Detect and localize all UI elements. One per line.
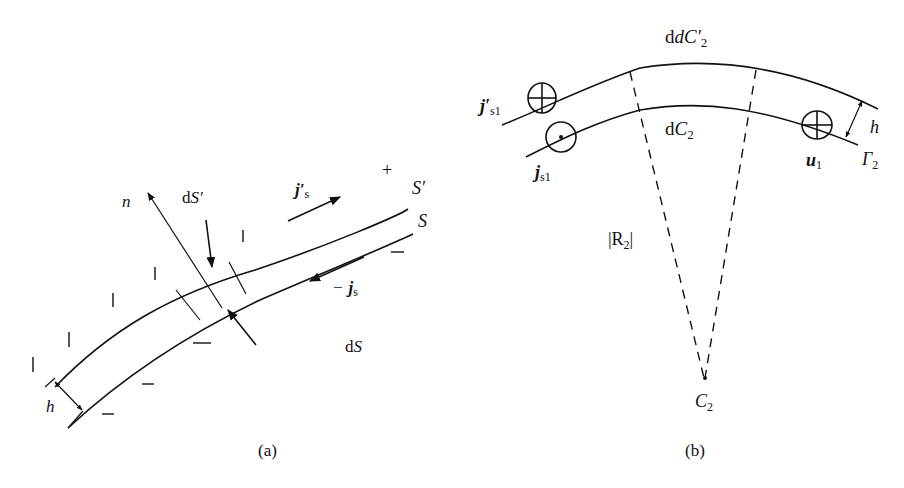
label-h-b: h <box>870 117 879 137</box>
label-dS: dS <box>345 337 363 356</box>
label-js-prime: j′s <box>292 180 310 201</box>
thickness-arrow-b <box>846 101 862 137</box>
center-point <box>703 376 707 380</box>
radius-right <box>705 70 756 378</box>
label-dC2: dC2 <box>665 118 694 142</box>
label-u1: u1 <box>806 150 822 172</box>
label-js1: js1 <box>532 162 551 184</box>
label-S: S <box>418 211 427 231</box>
diagram-canvas: n dS′ dS j′s −js S′ S + h (a) <box>0 0 904 488</box>
cross-circle-u1 <box>802 111 832 139</box>
outer-charge-marks <box>33 230 243 372</box>
label-dC2-prime: ddC′2 <box>665 26 707 50</box>
cross-circle-js1-prime <box>528 83 556 113</box>
label-S-prime: S′ <box>412 178 426 198</box>
dS-prime-arrow <box>206 220 212 267</box>
inner-charge-marks <box>102 252 404 414</box>
normal-vector <box>148 193 222 308</box>
dot-circle-js1 <box>546 122 576 152</box>
figure-b: ddC′2 dC2 j′s1 js1 u1 Γ2 h |R2| C2 (b) <box>477 26 879 460</box>
label-gamma2: Γ2 <box>861 149 878 172</box>
label-plus: + <box>382 160 392 180</box>
caption-b: (b) <box>685 441 705 460</box>
label-h-a: h <box>46 397 55 416</box>
label-radius: |R2| <box>608 229 633 252</box>
outer-arc <box>502 63 878 125</box>
label-center: C2 <box>695 391 713 414</box>
figure-a: n dS′ dS j′s −js S′ S + h (a) <box>33 160 427 460</box>
js-prime-arrow <box>288 197 340 221</box>
label-n: n <box>122 192 131 211</box>
dS-arrow <box>228 310 256 345</box>
caption-a: (a) <box>258 441 277 460</box>
label-minus-js: −js <box>333 278 358 299</box>
label-dS-prime: dS′ <box>182 188 203 207</box>
label-js1-prime: j′s1 <box>477 96 501 118</box>
